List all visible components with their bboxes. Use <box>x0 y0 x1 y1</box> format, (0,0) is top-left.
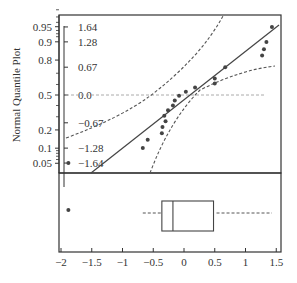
probability-tick-label: 0.05 <box>33 157 53 169</box>
lower-confidence-band <box>150 66 275 173</box>
interquartile-box <box>162 201 214 231</box>
quantile-tick-label: 0.67 <box>78 61 98 73</box>
x-tick-label: −1 <box>117 256 129 268</box>
data-point <box>166 108 170 112</box>
outlier-point <box>66 208 70 212</box>
probability-tick-label: 0.1 <box>38 142 52 154</box>
quantile-tick-label: 0.0 <box>78 89 92 101</box>
probability-ticks: 0.950.90.80.50.20.10.05 <box>33 10 59 169</box>
data-point <box>162 114 166 118</box>
x-tick-label: −2 <box>55 256 67 268</box>
data-point <box>66 161 70 165</box>
y-axis-label: Normal Quantile Plot <box>10 48 22 143</box>
data-point <box>146 138 150 142</box>
data-point <box>270 25 274 29</box>
data-point <box>213 81 217 85</box>
data-point <box>173 98 177 102</box>
x-tick-label: 0 <box>181 256 187 268</box>
reference-line <box>91 25 279 173</box>
data-point <box>160 131 164 135</box>
x-tick-label: 1 <box>243 256 249 268</box>
data-point <box>141 146 145 150</box>
quantile-tick-label: −0.67 <box>78 117 104 129</box>
x-tick-label: −0.5 <box>143 256 163 268</box>
boxplot <box>66 201 272 231</box>
quantile-tick-label: −1.28 <box>78 142 104 154</box>
data-point <box>264 40 268 44</box>
data-point <box>262 47 266 51</box>
data-point <box>160 125 164 129</box>
data-point <box>164 119 168 123</box>
data-point <box>171 103 175 107</box>
probability-tick-label: 0.8 <box>38 54 52 66</box>
data-point <box>184 90 188 94</box>
x-tick-label: −1.5 <box>82 256 102 268</box>
quantile-tick-label: 1.28 <box>78 36 98 48</box>
quantile-tick-label: −1.64 <box>78 157 104 169</box>
probability-tick-label: 0.95 <box>33 21 53 33</box>
normal-quantile-chart: Normal Quantile Plot 0.950.90.80.50.20.1… <box>0 0 297 283</box>
data-point <box>213 76 217 80</box>
probability-tick-label: 0.2 <box>38 124 52 136</box>
data-point <box>260 54 264 58</box>
data-point <box>177 94 181 98</box>
quantile-tick-label: 1.64 <box>78 21 98 33</box>
probability-tick-label: 0.5 <box>38 89 52 101</box>
x-tick-label: 0.5 <box>208 256 222 268</box>
probability-tick-label: 0.9 <box>38 36 52 48</box>
x-tick-label: 1.5 <box>269 256 283 268</box>
data-point <box>193 86 197 90</box>
x-axis-ticks: −2−1.5−1−0.500.511.5 <box>55 248 283 268</box>
data-point <box>223 65 227 69</box>
